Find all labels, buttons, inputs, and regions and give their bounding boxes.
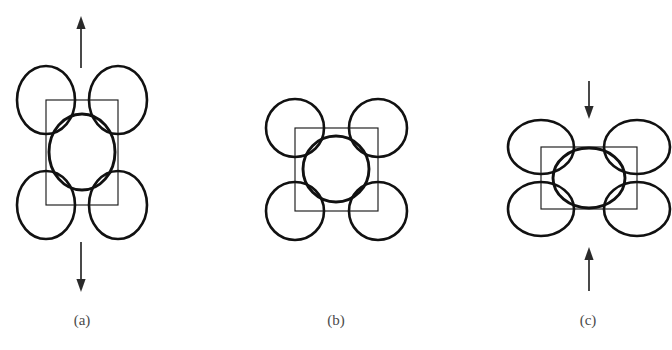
panel-c-compression-arrow-down	[584, 81, 593, 119]
unit-cell-deformation-diagram	[0, 0, 672, 350]
panel-c-unit-cell	[541, 147, 637, 209]
panel-c-compression-arrow-up	[584, 247, 593, 291]
panel-b-unit-cell	[295, 128, 378, 211]
panel-a-caption: (a)	[74, 312, 91, 329]
panel-a-tension-arrow-down	[76, 242, 85, 292]
panel-b-center-atom	[303, 136, 369, 202]
panel-c-center-atom	[553, 148, 625, 208]
panel-b-unstrained	[266, 99, 407, 240]
panel-a-center-atom	[49, 114, 115, 190]
panel-c-compression	[508, 81, 670, 291]
figure-container: (a) (b) (c)	[0, 0, 672, 350]
panel-b-caption: (b)	[327, 312, 345, 329]
panel-a-tension	[17, 16, 147, 292]
panel-a-tension-arrow-up	[76, 16, 85, 68]
panel-c-caption: (c)	[580, 312, 597, 329]
